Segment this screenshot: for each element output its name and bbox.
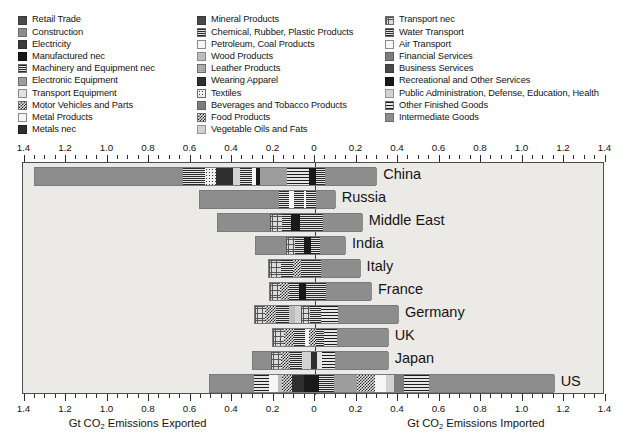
bar-segment[interactable] — [276, 306, 288, 323]
bar-segment[interactable] — [302, 352, 310, 369]
legend-item[interactable]: Vegetable Oils and Fats — [197, 124, 353, 136]
bar-segment[interactable] — [304, 237, 311, 254]
bar-segment[interactable] — [35, 168, 183, 185]
bar-segment[interactable] — [316, 329, 324, 346]
legend-item[interactable]: Retail Trade — [18, 14, 155, 26]
bar-segment[interactable] — [321, 260, 361, 277]
bar-segment[interactable] — [256, 237, 286, 254]
stacked-bar[interactable] — [255, 236, 345, 255]
bar-segment[interactable] — [310, 260, 320, 277]
bar-segment[interactable] — [316, 168, 325, 185]
bar-row[interactable]: Italy — [23, 259, 605, 278]
bar-segment[interactable] — [306, 191, 316, 208]
bar-segment[interactable] — [311, 214, 323, 231]
bar-segment[interactable] — [216, 168, 234, 185]
stacked-bar[interactable] — [269, 282, 371, 301]
stacked-bar[interactable] — [268, 259, 359, 278]
stacked-bar[interactable] — [209, 374, 553, 393]
legend-item[interactable]: Transport Equipment — [18, 87, 155, 99]
bar-segment[interactable] — [323, 214, 363, 231]
bar-segment[interactable] — [386, 375, 393, 392]
bar-segment[interactable] — [311, 237, 320, 254]
bar-segment[interactable] — [279, 191, 289, 208]
legend-item[interactable]: Machinery and Equipment nec — [18, 63, 155, 75]
bar-segment[interactable] — [394, 375, 404, 392]
bar-row[interactable]: China — [23, 167, 605, 186]
bar-segment[interactable] — [284, 329, 294, 346]
bar-segment[interactable] — [294, 191, 304, 208]
bar-segment[interactable] — [322, 352, 335, 369]
bar-row[interactable]: France — [23, 282, 605, 301]
bar-segment[interactable] — [300, 214, 310, 231]
bar-segment[interactable] — [301, 306, 310, 323]
legend-item[interactable]: Electronic Equipment — [18, 75, 155, 87]
bar-segment[interactable] — [290, 352, 302, 369]
bar-segment[interactable] — [271, 352, 280, 369]
bar-segment[interactable] — [324, 329, 336, 346]
bar-row[interactable]: India — [23, 236, 605, 255]
bar-segment[interactable] — [309, 168, 316, 185]
legend-item[interactable]: Transport nec — [385, 14, 599, 26]
bar-segment[interactable] — [375, 375, 386, 392]
bar-row[interactable]: UK — [23, 328, 605, 347]
bar-segment[interactable] — [287, 168, 309, 185]
bar-segment[interactable] — [310, 306, 320, 323]
bar-segment[interactable] — [253, 352, 272, 369]
bar-segment[interactable] — [254, 375, 270, 392]
legend-item[interactable]: Wearing Apparel — [197, 75, 353, 87]
bar-row[interactable]: Middle East — [23, 213, 605, 232]
bar-segment[interactable] — [306, 283, 316, 300]
legend-item[interactable]: Public Administration, Defense, Educatio… — [385, 87, 599, 99]
bar-segment[interactable] — [304, 375, 319, 392]
bar-segment[interactable] — [270, 283, 280, 300]
legend-item[interactable]: Financial Services — [385, 51, 599, 63]
legend-item[interactable]: Metals nec — [18, 124, 155, 136]
bar-segment[interactable] — [309, 329, 316, 346]
bar-segment[interactable] — [200, 191, 279, 208]
bar-segment[interactable] — [273, 329, 283, 346]
bar-segment[interactable] — [294, 329, 305, 346]
legend-item[interactable]: Mineral Products — [197, 14, 353, 26]
bar-segment[interactable] — [295, 237, 303, 254]
bar-segment[interactable] — [183, 168, 205, 185]
stacked-bar[interactable] — [217, 213, 361, 232]
bar-row[interactable]: US — [23, 374, 605, 393]
stacked-bar[interactable] — [34, 167, 376, 186]
bar-segment[interactable] — [319, 375, 334, 392]
legend-item[interactable]: Recreational and Other Services — [385, 75, 599, 87]
legend-item[interactable]: Business Services — [385, 63, 599, 75]
bar-segment[interactable] — [316, 191, 335, 208]
stacked-bar[interactable] — [272, 328, 387, 347]
bar-segment[interactable] — [293, 260, 302, 277]
bar-segment[interactable] — [321, 306, 338, 323]
legend-item[interactable]: Other Finished Goods — [385, 99, 599, 111]
bar-segment[interactable] — [292, 375, 304, 392]
bar-segment[interactable] — [357, 375, 375, 392]
bar-segment[interactable] — [281, 352, 290, 369]
legend-item[interactable]: Construction — [18, 26, 155, 38]
bar-segment[interactable] — [338, 306, 399, 323]
bar-segment[interactable] — [269, 260, 280, 277]
bar-segment[interactable] — [205, 168, 216, 185]
bar-segment[interactable] — [240, 168, 252, 185]
bar-segment[interactable] — [334, 375, 358, 392]
legend-item[interactable]: Electricity — [18, 38, 155, 50]
legend-item[interactable]: Textiles — [197, 87, 353, 99]
stacked-bar[interactable] — [254, 305, 398, 324]
legend-item[interactable]: Water Transport — [385, 26, 599, 38]
legend-item[interactable]: Food Products — [197, 112, 353, 124]
bar-segment[interactable] — [260, 168, 287, 185]
bar-row[interactable]: Japan — [23, 351, 605, 370]
stacked-bar[interactable] — [199, 190, 335, 209]
bar-segment[interactable] — [255, 306, 265, 323]
bar-segment[interactable] — [218, 214, 270, 231]
bar-row[interactable]: Germany — [23, 305, 605, 324]
bar-segment[interactable] — [265, 306, 276, 323]
legend-item[interactable]: Petroleum, Coal Products — [197, 38, 353, 50]
legend-item[interactable]: Air Transport — [385, 38, 599, 50]
bar-row[interactable]: Russia — [23, 190, 605, 209]
bar-segment[interactable] — [269, 375, 277, 392]
bar-segment[interactable] — [320, 237, 346, 254]
bar-segment[interactable] — [337, 329, 389, 346]
bar-segment[interactable] — [291, 214, 300, 231]
